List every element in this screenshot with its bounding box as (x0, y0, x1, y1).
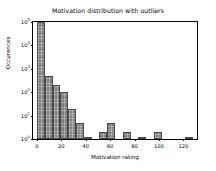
y-minor-tick (32, 24, 33, 25)
plot-axes: 020406080100120100101102103104105 (32, 21, 198, 140)
x-axis-label: Motivation rating (32, 154, 198, 160)
y-minor-tick (32, 38, 33, 39)
y-minor-tick (32, 58, 33, 59)
figure: Motivation distribution with outliers 02… (0, 0, 216, 171)
x-tick (61, 139, 62, 141)
x-tick (183, 139, 184, 141)
histogram-bar (185, 137, 193, 139)
y-minor-tick (32, 123, 33, 124)
x-tick (110, 139, 111, 141)
plot-area (33, 22, 197, 139)
x-tick (159, 139, 160, 141)
y-minor-tick (32, 102, 33, 103)
y-tick (31, 139, 33, 140)
y-minor-tick (32, 46, 33, 47)
y-tick-label: 104 (21, 42, 30, 48)
y-minor-tick (32, 128, 33, 129)
y-minor-tick (32, 76, 33, 77)
y-tick-label: 100 (21, 136, 30, 142)
y-minor-tick (32, 55, 33, 56)
x-tick-label: 0 (35, 143, 38, 149)
x-tick-label: 120 (178, 143, 188, 149)
y-minor-tick (32, 34, 33, 35)
y-minor-tick (32, 26, 33, 27)
y-tick-label: 105 (21, 19, 30, 25)
y-minor-tick (32, 51, 33, 52)
histogram-bar (138, 137, 146, 139)
histogram-bar (107, 123, 115, 139)
x-tick-label: 80 (131, 143, 138, 149)
y-axis-label: Occurences (5, 23, 11, 83)
y-minor-tick (32, 119, 33, 120)
y-minor-tick (32, 132, 33, 133)
x-tick-label: 60 (107, 143, 114, 149)
histogram-bar (123, 132, 131, 139)
y-minor-tick (32, 97, 33, 98)
y-minor-tick (32, 74, 33, 75)
x-tick-label: 20 (58, 143, 65, 149)
y-minor-tick (32, 27, 33, 28)
y-minor-tick (32, 85, 33, 86)
y-minor-tick (32, 71, 33, 72)
y-minor-tick (32, 94, 33, 95)
y-minor-tick (32, 81, 33, 82)
histogram-bar (53, 85, 61, 139)
y-minor-tick (32, 31, 33, 32)
y-minor-tick (32, 109, 33, 110)
x-tick-label: 100 (154, 143, 164, 149)
histogram-bar (68, 109, 76, 139)
x-tick-label: 40 (82, 143, 89, 149)
x-tick (37, 139, 38, 141)
y-tick-label: 101 (21, 113, 30, 119)
y-minor-tick (32, 118, 33, 119)
y-minor-tick (32, 78, 33, 79)
y-minor-tick (32, 96, 33, 97)
y-minor-tick (32, 121, 33, 122)
y-minor-tick (32, 23, 33, 24)
y-minor-tick (32, 62, 33, 63)
y-tick-label: 103 (21, 66, 30, 72)
histogram-bar (76, 123, 84, 139)
y-minor-tick (32, 72, 33, 73)
histogram-bar (99, 132, 107, 139)
y-minor-tick (32, 125, 33, 126)
y-minor-tick (32, 99, 33, 100)
y-minor-tick (32, 49, 33, 50)
y-minor-tick (32, 52, 33, 53)
y-tick-label: 102 (21, 89, 30, 95)
chart-title: Motivation distribution with outliers (0, 7, 216, 14)
histogram-bar (45, 76, 53, 139)
y-minor-tick (32, 29, 33, 30)
histogram-bar (60, 92, 68, 139)
y-minor-tick (32, 70, 33, 71)
y-minor-tick (32, 48, 33, 49)
y-minor-tick (32, 104, 33, 105)
x-tick (86, 139, 87, 141)
y-minor-tick (32, 117, 33, 118)
histogram-bar (154, 132, 162, 139)
y-minor-tick (32, 93, 33, 94)
x-tick (135, 139, 136, 141)
histogram-bar (37, 22, 45, 139)
